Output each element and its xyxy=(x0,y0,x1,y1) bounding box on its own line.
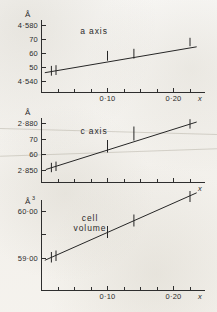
y-ticklabel-a-0: 4·580 xyxy=(18,21,38,30)
y-ticklabel-a-3: 50 xyxy=(29,63,38,72)
fit-line-volume xyxy=(45,193,197,260)
series-label-volume-line1: cell xyxy=(82,213,98,223)
y-unit-label-volume: Å xyxy=(25,197,31,206)
y-unit-superscript-volume: 3 xyxy=(32,195,35,201)
y-ticklabel-volume-1: 59·00 xyxy=(18,254,38,263)
y-ticklabel-a-1: 70 xyxy=(29,35,38,44)
series-label-c-axis: c axis xyxy=(80,126,107,136)
y-ticklabel-c-2: 60 xyxy=(29,150,38,159)
chart-cell-volume: Å 3 60·00 59·00 0·10 0·20 x xyxy=(0,186,217,312)
x-axis-variable-volume: x xyxy=(197,292,202,301)
figure-page: Å 4·580 70 60 50 4·540 xyxy=(0,0,217,312)
y-ticklabel-a-4: 4·540 xyxy=(18,77,38,86)
y-ticklabel-c-0: 2·880 xyxy=(18,119,38,128)
x-tick-group-a xyxy=(58,88,190,93)
y-ticklabel-c-3: 2·850 xyxy=(18,166,38,175)
chart-c-axis: Å 2·880 70 60 2·850 x xyxy=(0,96,217,196)
panel-cell-volume: Å 3 60·00 59·00 0·10 0·20 x xyxy=(0,186,217,312)
x-tick-group-c xyxy=(58,178,190,183)
y-ticklabel-volume-0: 60·00 xyxy=(18,207,38,216)
x-ticklabel-volume-1: 0·20 xyxy=(166,292,182,301)
y-ticklabel-c-1: 70 xyxy=(29,135,38,144)
series-label-a-axis: a axis xyxy=(80,26,108,36)
panel-c-axis: Å 2·880 70 60 2·850 x xyxy=(0,96,217,196)
y-unit-label-c: Å xyxy=(25,108,31,117)
x-tick-group-volume xyxy=(58,286,190,291)
y-unit-label-a: Å xyxy=(25,10,31,19)
y-ticklabel-a-2: 60 xyxy=(29,49,38,58)
chart-a-axis: Å 4·580 70 60 50 4·540 xyxy=(0,0,217,104)
x-ticklabel-volume-0: 0·10 xyxy=(100,292,116,301)
fit-line-c-axis xyxy=(46,122,197,170)
series-label-volume-line2: volume xyxy=(74,223,107,233)
panel-a-axis: Å 4·580 70 60 50 4·540 xyxy=(0,0,217,104)
fit-line-a-axis xyxy=(45,47,197,73)
